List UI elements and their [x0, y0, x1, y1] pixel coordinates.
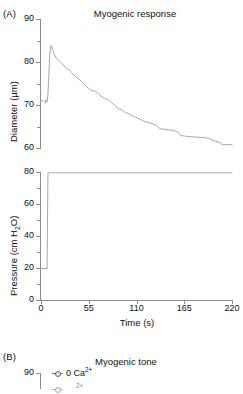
- panel-b-label: (B): [3, 351, 16, 362]
- tone-legend-item-clipped: 2+: [52, 384, 83, 394]
- time-xtick-label-165: 165: [177, 303, 192, 313]
- time-xtick-label-110: 110: [129, 303, 143, 313]
- time-xtick-label-220: 220: [224, 303, 239, 313]
- tone-ytick-90: [36, 373, 40, 374]
- tone-legend-label-clipped: 2+: [66, 384, 83, 394]
- chart-title-myogenic-tone: Myogenic tone: [95, 356, 215, 367]
- time-axis-title: Time (s): [120, 317, 154, 328]
- tone-y-axis-line: [40, 373, 41, 389]
- open-circle-marker-icon: [52, 370, 63, 377]
- time-xtick-label-55: 55: [84, 303, 94, 313]
- tone-legend-label-0-ca: 0 Ca2+: [66, 368, 92, 378]
- open-circle-marker-icon-clipped: [52, 386, 63, 393]
- tone-ytick-label-90: 90: [8, 367, 34, 377]
- time-xtick-label-0: 0: [38, 303, 43, 313]
- tone-legend-item-0-ca: 0 Ca2+: [52, 368, 92, 378]
